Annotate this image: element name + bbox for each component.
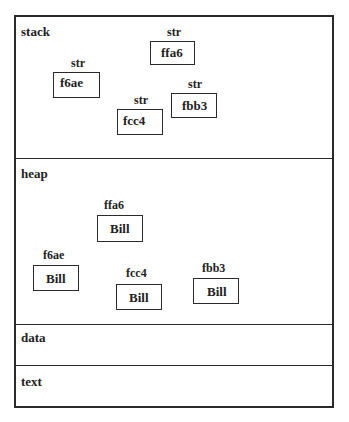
text-divider [16, 365, 332, 366]
data-segment-label: data [21, 331, 46, 345]
heap-object-box: Bill [116, 284, 162, 310]
stack-var-box: fbb3 [171, 93, 217, 118]
heap-object-value: Bill [207, 285, 227, 299]
heap-object-address: ffa6 [104, 199, 134, 212]
heap-segment-label: heap [21, 167, 48, 181]
heap-divider [16, 158, 332, 159]
stack-var-type: str [56, 57, 100, 70]
heap-object-box: Bill [97, 215, 143, 242]
stack-var-box: fcc4 [117, 109, 163, 135]
stack-var-type: str [119, 94, 163, 107]
text-segment-label: text [21, 375, 42, 389]
stack-var-value: ffa6 [161, 46, 183, 60]
heap-object-address: f6ae [43, 249, 73, 262]
data-divider [16, 324, 332, 325]
heap-object-box: Bill [193, 278, 239, 304]
stack-segment-label: stack [21, 25, 50, 39]
memory-layout-frame: stack str ffa6 str f6ae str fcc4 str fbb… [14, 15, 334, 408]
heap-object-address: fcc4 [126, 267, 156, 280]
stack-var-value: f6ae [60, 76, 83, 90]
stack-var-box: f6ae [53, 72, 100, 98]
heap-object-address: fbb3 [202, 262, 232, 275]
stack-var-type: str [152, 26, 196, 39]
heap-object-value: Bill [129, 291, 149, 305]
stack-var-box: ffa6 [150, 41, 195, 65]
heap-object-value: Bill [110, 222, 130, 236]
stack-var-value: fbb3 [182, 99, 207, 113]
stack-var-type: str [173, 78, 217, 91]
heap-object-value: Bill [46, 272, 66, 286]
stack-var-value: fcc4 [123, 114, 145, 128]
heap-object-box: Bill [33, 265, 79, 291]
